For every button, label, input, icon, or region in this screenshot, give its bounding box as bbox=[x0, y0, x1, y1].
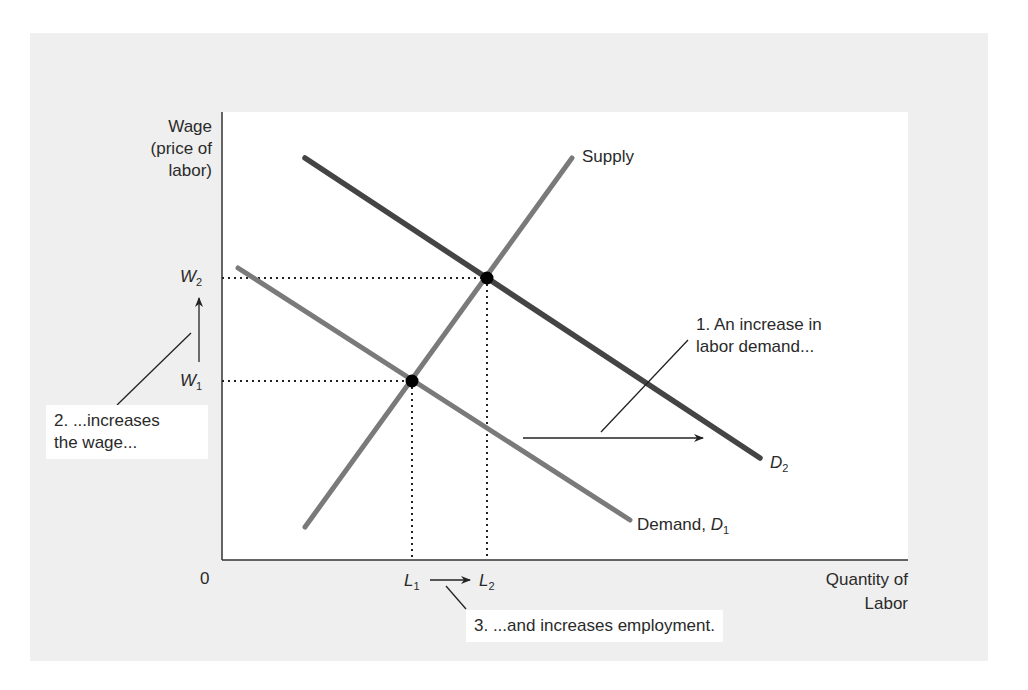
demand1-label: Demand, D1 bbox=[637, 514, 729, 541]
supply-label: Supply bbox=[582, 146, 634, 168]
equilibrium-point-1 bbox=[406, 375, 419, 388]
note2-line1: 2. ...increases bbox=[54, 410, 200, 432]
l2-sub: 2 bbox=[488, 580, 494, 592]
demand2-label: D2 bbox=[770, 452, 788, 479]
w1-base: W bbox=[180, 371, 196, 390]
annotation-note-1: 1. An increase in labor demand... bbox=[692, 312, 826, 360]
demand1-prefix: Demand, bbox=[637, 515, 711, 534]
demand2-base: D bbox=[770, 453, 782, 472]
w1-tick-label: W1 bbox=[180, 370, 202, 397]
note3-text: 3. ...and increases employment. bbox=[474, 616, 715, 635]
demand2-curve bbox=[305, 158, 760, 458]
l1-tick-label: L1 bbox=[404, 570, 420, 597]
origin-label: 0 bbox=[200, 568, 209, 590]
demand2-sub: 2 bbox=[782, 462, 788, 474]
equilibrium-point-2 bbox=[481, 272, 494, 285]
demand1-curve bbox=[238, 268, 630, 520]
note1-line2: labor demand... bbox=[696, 336, 822, 358]
l1-sub: 1 bbox=[413, 580, 419, 592]
note1-leader bbox=[601, 340, 688, 432]
note3-leader bbox=[446, 586, 466, 609]
note2-line2: the wage... bbox=[54, 432, 200, 454]
w2-base: W bbox=[180, 267, 196, 286]
note1-line1: 1. An increase in bbox=[696, 314, 822, 336]
demand1-sub: 1 bbox=[723, 524, 729, 536]
w2-tick-label: W2 bbox=[180, 266, 202, 293]
x-axis-label-line2: Labor bbox=[800, 592, 908, 616]
x-axis-label-line1: Quantity of bbox=[800, 568, 908, 592]
w2-sub: 2 bbox=[196, 276, 202, 288]
l2-tick-label: L2 bbox=[479, 570, 495, 597]
supply-curve bbox=[305, 158, 572, 527]
y-axis-label-line1: Wage bbox=[150, 116, 212, 138]
demand1-base: D bbox=[711, 515, 723, 534]
x-axis-label: Quantity of Labor bbox=[800, 568, 908, 616]
annotation-note-3: 3. ...and increases employment. bbox=[466, 610, 723, 642]
w1-sub: 1 bbox=[196, 380, 202, 392]
y-axis-label: Wage (price of labor) bbox=[150, 116, 212, 182]
y-axis-label-line2: (price of bbox=[150, 138, 212, 160]
annotation-note-2: 2. ...increases the wage... bbox=[46, 405, 208, 459]
y-axis-label-line3: labor) bbox=[150, 160, 212, 182]
